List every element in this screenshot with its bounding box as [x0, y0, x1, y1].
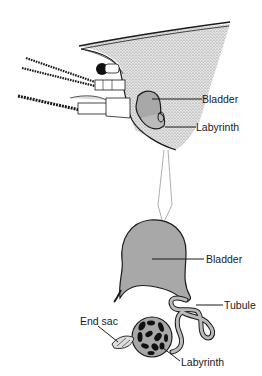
- bottom-bladder: [114, 220, 190, 302]
- bottom-labyrinth: [132, 317, 172, 357]
- end-sac-leader-line: [98, 326, 118, 342]
- antennal-gland-diagram: [0, 0, 262, 376]
- label-labyrinth-top: Labyrinth: [196, 122, 239, 133]
- label-bladder-top: Bladder: [202, 94, 238, 105]
- label-labyrinth-bottom: Labyrinth: [181, 357, 224, 368]
- tubule: [171, 298, 213, 352]
- label-end-sac: End sac: [80, 316, 118, 327]
- magnification-connector: [158, 150, 172, 224]
- end-sac: [112, 336, 134, 349]
- label-tubule: Tubule: [224, 300, 256, 311]
- label-bladder-bottom: Bladder: [206, 254, 242, 265]
